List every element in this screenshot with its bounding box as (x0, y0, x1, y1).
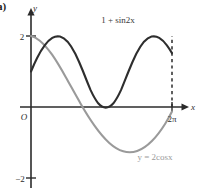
origin-label: O (21, 112, 28, 122)
graph-canvas: y x O 2 −2 2π 1 + sin2x y = 2cosx (0, 0, 200, 194)
x-axis-label: x (190, 102, 195, 112)
x-tick-label-2pi: 2π (167, 114, 177, 124)
figure-container: a) y x O 2 −2 2π 1 + sin2x y = 2cosx (0, 0, 200, 194)
y-tick-label-2: 2 (20, 32, 25, 42)
y-tick-label-minus-2: −2 (15, 174, 25, 184)
curve-2cosx (31, 36, 172, 152)
curve-label-2cosx: y = 2cosx (137, 152, 173, 162)
y-axis-label: y (32, 3, 37, 13)
x-axis-arrowhead (182, 103, 190, 110)
curve-1-plus-sin2x (31, 36, 172, 107)
curve-label-1-plus-sin2x: 1 + sin2x (101, 15, 135, 25)
